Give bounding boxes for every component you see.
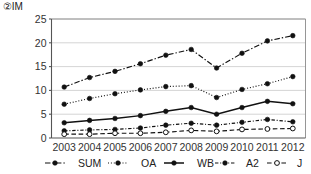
x-axis-tick-label: 2005 [103, 141, 127, 153]
legend-marker [275, 161, 280, 166]
data-point [240, 87, 245, 92]
data-point [290, 126, 295, 131]
data-point [291, 101, 296, 106]
chart-legend: SUMOAWBA2J [45, 157, 302, 169]
legend-item-wb[interactable]: WB [164, 157, 214, 169]
data-point [138, 88, 143, 93]
data-point [113, 91, 118, 96]
legend-label: SUM [78, 157, 101, 169]
data-point [265, 127, 270, 132]
line-chart: 0510152025 20032004200520062007200820092… [0, 0, 311, 174]
x-axis-tick-label: 2004 [78, 141, 102, 153]
data-point [189, 105, 194, 110]
data-point [164, 123, 169, 128]
data-point [240, 51, 245, 56]
data-point [240, 105, 245, 110]
chart-figure: ②IM 0510152025 2003200420052006200720082… [0, 0, 311, 174]
data-point [87, 118, 92, 123]
data-series-group [62, 33, 295, 136]
legend-label: WB [197, 157, 214, 169]
data-point [291, 120, 296, 125]
legend-marker [116, 161, 121, 166]
data-point [291, 74, 296, 79]
x-axis-tick-label: 2012 [281, 141, 305, 153]
x-axis-tick-label: 2007 [154, 141, 178, 153]
data-point [265, 39, 270, 44]
data-point [62, 102, 67, 107]
data-point [214, 129, 219, 134]
y-axis-tick-label: 20 [35, 37, 47, 49]
data-point [164, 109, 169, 114]
y-axis-tick-label: 5 [41, 108, 47, 120]
series-sum [62, 33, 295, 89]
data-point [189, 83, 194, 88]
data-point [87, 96, 92, 101]
series-line-wb [64, 101, 293, 122]
x-axis-tick-label: 2006 [129, 141, 153, 153]
x-axis-ticks-group: 2003200420052006200720082009201020112012 [53, 141, 305, 153]
data-point [87, 132, 92, 137]
data-point [163, 130, 168, 135]
data-point [113, 131, 118, 136]
legend-item-sum[interactable]: SUM [45, 157, 101, 169]
y-axis-tick-label: 10 [35, 84, 47, 96]
data-point [62, 132, 67, 137]
data-point [164, 84, 169, 89]
data-point [138, 61, 143, 66]
legend-marker [223, 161, 228, 166]
data-point [214, 66, 219, 71]
legend-label: OA [141, 157, 156, 169]
data-point [265, 81, 270, 86]
data-point [214, 123, 219, 128]
data-point [138, 113, 143, 118]
data-point [189, 121, 194, 126]
legend-marker [172, 161, 177, 166]
series-wb [62, 99, 295, 125]
legend-item-oa[interactable]: OA [108, 157, 156, 169]
y-axis-tick-label: 25 [35, 13, 47, 25]
x-axis-tick-label: 2010 [230, 141, 254, 153]
data-point [240, 127, 245, 132]
data-point [113, 69, 118, 74]
y-axis-tick-label: 0 [41, 132, 47, 144]
data-point [214, 112, 219, 117]
x-axis-tick-label: 2011 [256, 141, 279, 153]
data-point [138, 126, 143, 131]
legend-item-j[interactable]: J [267, 157, 302, 169]
series-line-sum [64, 36, 293, 87]
legend-item-a2[interactable]: A2 [215, 157, 259, 169]
data-point [265, 117, 270, 122]
data-point [240, 120, 245, 125]
x-axis-tick-label: 2003 [53, 141, 77, 153]
legend-label: J [297, 157, 302, 169]
data-point [214, 95, 219, 100]
data-point [265, 99, 270, 104]
data-point [291, 33, 296, 38]
data-point [138, 131, 143, 136]
data-point [189, 128, 194, 133]
data-point [189, 47, 194, 52]
y-axis-tick-label: 15 [35, 60, 47, 72]
data-point [62, 85, 67, 90]
data-point [62, 120, 67, 125]
series-j [62, 126, 295, 137]
y-axis-ticks-group: 0510152025 [35, 13, 52, 144]
legend-marker [53, 161, 58, 166]
data-point [164, 53, 169, 58]
x-axis-tick-label: 2009 [205, 141, 229, 153]
data-point [87, 75, 92, 80]
x-axis-tick-label: 2008 [180, 141, 204, 153]
legend-label: A2 [246, 157, 259, 169]
data-point [113, 116, 118, 121]
